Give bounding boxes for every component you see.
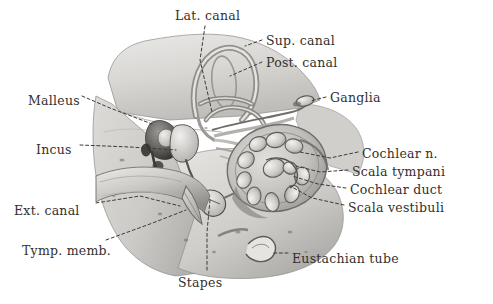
ganglia-leader — [310, 97, 326, 101]
label-malleus: Malleus — [28, 95, 80, 108]
lat-canal-leader — [200, 26, 212, 112]
ext-canal-leader — [96, 196, 180, 206]
cochlear-n-leader — [300, 152, 358, 158]
label-cochlear-n: Cochlear n. — [362, 148, 438, 161]
label-post-canal: Post. canal — [266, 57, 338, 70]
post-canal-leader — [230, 62, 262, 76]
label-lat-canal: Lat. canal — [175, 10, 240, 23]
figure-canvas: Lat. canalSup. canalPost. canalGangliaMa… — [0, 0, 493, 304]
label-ganglia: Ganglia — [330, 92, 381, 105]
label-cochlear-duct: Cochlear duct — [350, 184, 442, 197]
label-sup-canal: Sup. canal — [266, 35, 335, 48]
cochlear-duct-leader — [292, 176, 346, 188]
incus-leader — [80, 145, 176, 150]
scala-vestibuli-leader — [290, 186, 344, 205]
stapes-leader — [207, 200, 210, 270]
label-incus: Incus — [36, 144, 72, 157]
label-tymp-memb: Tymp. memb. — [22, 245, 111, 258]
label-ext-canal: Ext. canal — [14, 205, 80, 218]
scala-tympani-leader — [296, 166, 348, 172]
sup-canal-leader — [245, 40, 262, 46]
label-eustachian-tube: Eustachian tube — [292, 253, 399, 266]
label-scala-tympani: Scala tympani — [352, 166, 445, 179]
label-stapes: Stapes — [178, 277, 222, 290]
label-scala-vestibuli: Scala vestibuli — [348, 202, 444, 215]
tymp-memb-leader — [106, 210, 186, 240]
malleus-leader — [82, 96, 152, 124]
